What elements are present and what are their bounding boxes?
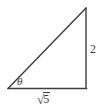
triangle-drawing: [0, 0, 101, 111]
angle-theta-label: θ: [17, 76, 22, 87]
radical-expression: √5: [37, 92, 50, 106]
right-triangle-figure: θ 2 √5: [0, 0, 101, 111]
radicand-value: 5: [43, 92, 50, 106]
side-bottom-length-label: √5: [37, 92, 50, 106]
side-right-length-label: 2: [90, 43, 96, 55]
